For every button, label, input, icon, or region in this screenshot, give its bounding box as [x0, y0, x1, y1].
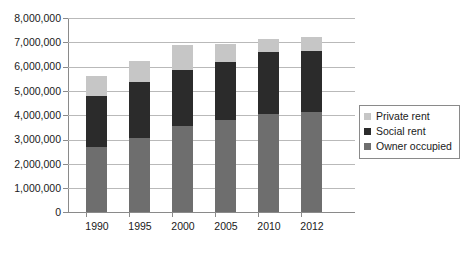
bar-segment-social-rent — [129, 82, 150, 138]
x-axis-tick — [301, 213, 302, 217]
y-axis-label: 0 — [1, 207, 61, 217]
bar-segment-private-rent — [301, 37, 322, 51]
bar-segment-social-rent — [86, 96, 107, 147]
bar-segment-private-rent — [129, 61, 150, 82]
plot-area — [68, 18, 355, 212]
x-axis-label-1995: 1995 — [118, 221, 162, 232]
y-axis-labels: 8,000,000 7,000,000 6,000,000 5,000,000 … — [0, 0, 61, 257]
gridline — [68, 18, 355, 19]
x-axis-label-2005: 2005 — [204, 221, 248, 232]
y-axis-label: 7,000,000 — [1, 37, 61, 47]
bar-segment-social-rent — [301, 51, 322, 112]
legend-item-social-rent: Social rent — [364, 124, 455, 139]
bar-segment-owner-occupied — [172, 126, 193, 212]
y-axis-label: 8,000,000 — [1, 13, 61, 23]
x-axis-label-2012: 2012 — [290, 221, 334, 232]
chart-legend: Private rent Social rent Owner occupied — [359, 105, 460, 159]
stacked-bar-chart: 8,000,000 7,000,000 6,000,000 5,000,000 … — [0, 0, 466, 257]
legend-swatch-icon — [364, 143, 371, 150]
bar-segment-owner-occupied — [129, 138, 150, 212]
x-axis-tick — [215, 213, 216, 217]
y-axis-label: 4,000,000 — [1, 110, 61, 120]
y-axis-label: 2,000,000 — [1, 159, 61, 169]
bar-segment-owner-occupied — [258, 114, 279, 212]
bar-segment-private-rent — [86, 76, 107, 96]
bar-segment-owner-occupied — [301, 112, 322, 212]
bar-segment-owner-occupied — [86, 147, 107, 212]
bar-segment-owner-occupied — [215, 120, 236, 212]
y-axis-label: 3,000,000 — [1, 134, 61, 144]
legend-label: Social rent — [376, 126, 426, 137]
bar-segment-private-rent — [172, 45, 193, 70]
y-axis-label: 6,000,000 — [1, 61, 61, 71]
x-axis-tick — [86, 213, 87, 217]
legend-swatch-icon — [364, 113, 371, 120]
legend-item-private-rent: Private rent — [364, 109, 455, 124]
legend-swatch-icon — [364, 128, 371, 135]
bar-segment-social-rent — [172, 70, 193, 126]
x-axis-label-1990: 1990 — [75, 221, 119, 232]
y-axis-label: 5,000,000 — [1, 86, 61, 96]
bar-segment-private-rent — [258, 39, 279, 52]
y-axis-label: 1,000,000 — [1, 183, 61, 193]
x-axis-label-2010: 2010 — [247, 221, 291, 232]
legend-item-owner-occupied: Owner occupied — [364, 139, 455, 154]
x-axis-label-2000: 2000 — [161, 221, 205, 232]
chart-screenshot: 8,000,000 7,000,000 6,000,000 5,000,000 … — [0, 0, 466, 257]
x-axis-tick — [129, 213, 130, 217]
bar-segment-social-rent — [258, 52, 279, 114]
legend-label: Private rent — [376, 111, 430, 122]
x-axis-tick — [172, 213, 173, 217]
x-axis-line — [68, 212, 355, 213]
bar-segment-private-rent — [215, 44, 236, 62]
legend-label: Owner occupied — [376, 141, 452, 152]
x-axis-tick — [258, 213, 259, 217]
bar-segment-social-rent — [215, 62, 236, 120]
